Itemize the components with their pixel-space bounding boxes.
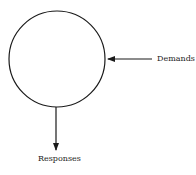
diagram-canvas xyxy=(0,0,196,175)
system-circle xyxy=(9,11,105,107)
responses-label: Responses xyxy=(38,155,81,163)
demands-label: Demands xyxy=(157,55,195,63)
